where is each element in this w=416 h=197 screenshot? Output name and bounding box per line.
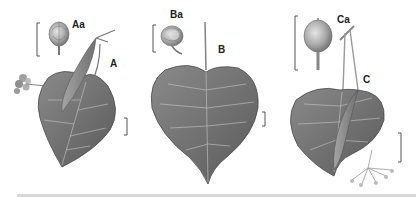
specimen-a bbox=[14, 22, 127, 167]
illustration bbox=[0, 0, 416, 197]
label-leaf-b: B bbox=[218, 45, 225, 55]
leaf-b-icon bbox=[151, 65, 258, 184]
label-fruit-ba: Ba bbox=[170, 10, 183, 20]
botanical-figure: Aa A Ba B Ca C bbox=[0, 0, 416, 197]
label-leaf-a: A bbox=[110, 59, 117, 69]
scale-bar-aa bbox=[37, 23, 40, 56]
label-leaf-c: C bbox=[363, 75, 370, 85]
specimen-c bbox=[290, 16, 401, 187]
specimen-b bbox=[151, 22, 265, 184]
fruit-ba-icon bbox=[161, 26, 183, 54]
label-fruit-ca: Ca bbox=[337, 15, 350, 25]
scale-bar-b bbox=[262, 112, 265, 126]
scale-bar-ca bbox=[295, 16, 298, 70]
scale-bar-c bbox=[398, 133, 401, 162]
fruit-aa-icon bbox=[49, 22, 69, 55]
flower-cluster-c-icon bbox=[350, 150, 394, 187]
bottom-divider bbox=[17, 194, 416, 197]
scale-bar-a bbox=[124, 118, 127, 135]
fruit-ca-icon bbox=[304, 18, 332, 70]
scale-bar-ba bbox=[153, 25, 156, 52]
label-fruit-aa: Aa bbox=[72, 20, 85, 30]
